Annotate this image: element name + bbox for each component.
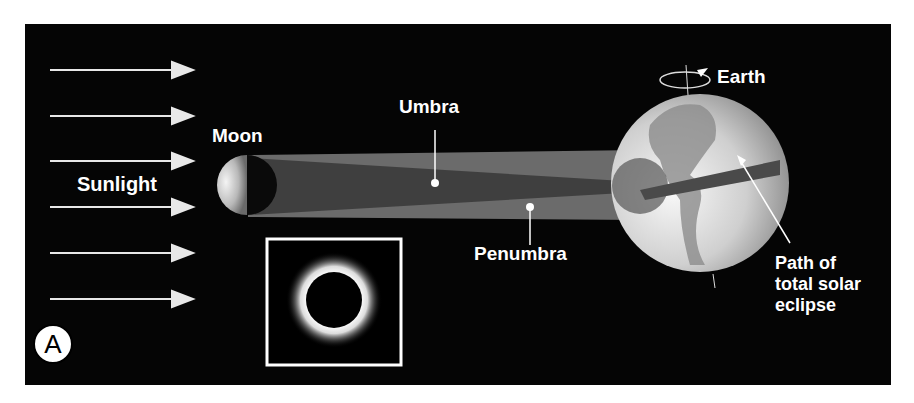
earth-label: Earth xyxy=(717,66,766,88)
moon xyxy=(217,155,277,215)
moon-label: Moon xyxy=(212,125,263,147)
path-label: Path of total solar eclipse xyxy=(775,253,861,316)
solar-eclipse-diagram: Sunlight Moon Umbra Penumbra Earth Path … xyxy=(0,0,914,403)
path-label-line1: Path of xyxy=(775,253,861,274)
sunlight-label: Sunlight xyxy=(77,173,157,196)
eclipse-inset-photo xyxy=(267,239,401,365)
penumbra-label: Penumbra xyxy=(474,243,567,265)
path-label-line2: total solar xyxy=(775,274,861,295)
umbra-label: Umbra xyxy=(399,96,459,118)
panel-label-text: A xyxy=(41,329,65,360)
path-label-line3: eclipse xyxy=(775,295,861,316)
